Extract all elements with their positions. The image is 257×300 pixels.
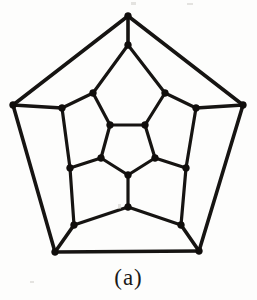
graph-edge-o1-o2 <box>128 16 243 105</box>
graph-edge-o2-m3 <box>196 105 243 108</box>
graph-vertex-outer-right <box>240 102 247 109</box>
graph-vertex-inner-right <box>152 155 159 162</box>
figure-caption: (a) <box>0 262 257 294</box>
graph-edge-m9-i3 <box>155 158 186 168</box>
graph-vertex-outer-bottom-left <box>52 249 59 256</box>
graph-edge-o2-o3 <box>199 105 243 251</box>
graph-vertex-inner-bottom <box>125 172 132 179</box>
graph-edge-m9-m3 <box>186 108 196 168</box>
graph-edge-o5-o1 <box>13 16 128 105</box>
graph-vertex-mid-left-upper <box>59 105 66 112</box>
scan-speck-top-b <box>187 3 193 5</box>
graph-vertex-outer-bottom-right <box>196 248 203 255</box>
graph-edge-m3-m2 <box>165 93 196 108</box>
graph-vertex-mid-upper-right <box>162 90 169 97</box>
graph-edge-m10-i5 <box>70 158 101 168</box>
graph-edge-o4-m6 <box>55 225 74 252</box>
graph-edge-m1-m7 <box>62 93 93 108</box>
graph-edge-m7-m10 <box>62 108 70 168</box>
graph-edge-m8-m1 <box>93 45 128 93</box>
graph-vertex-mid-right-lower <box>178 222 185 229</box>
graph-edge-o3-m4 <box>181 225 199 251</box>
graph-edge-i3-i4 <box>128 158 155 175</box>
graph-edge-o5-m7 <box>13 105 62 108</box>
graph-edge-i2-i3 <box>145 125 155 158</box>
graph-vertex-mid-right-upper <box>193 105 200 112</box>
scan-speck-top-a <box>131 2 136 5</box>
graph-vertex-mid-upper-left <box>90 90 97 97</box>
graph-vertex-outer-left <box>10 102 17 109</box>
edge-layer <box>13 16 243 252</box>
graph-edge-m6-m5 <box>74 207 128 225</box>
graph-edge-i5-i1 <box>101 125 110 158</box>
graph-edge-m2-i2 <box>145 93 165 125</box>
graph-edge-m8-m2 <box>128 45 165 93</box>
graph-edge-i4-i5 <box>101 158 128 175</box>
graph-edge-m4-m9 <box>181 168 186 225</box>
dodecahedral-graph-drawing <box>0 0 257 268</box>
graph-vertex-mid-left-lower <box>71 222 78 229</box>
graph-vertex-mid-left-mid <box>67 165 74 172</box>
graph-vertex-mid-bottom <box>125 204 132 211</box>
graph-vertex-outer-apex <box>125 13 132 20</box>
graph-vertex-mid-top <box>125 42 132 49</box>
graph-edge-m10-m6 <box>70 168 74 225</box>
graph-edge-m1-i1 <box>93 93 110 125</box>
graph-vertex-mid-right-mid <box>183 165 190 172</box>
graph-edge-o4-o5 <box>13 105 55 252</box>
figure-container: (a) <box>0 0 257 300</box>
graph-edge-o3-o4 <box>55 251 199 252</box>
graph-vertex-inner-left <box>98 155 105 162</box>
graph-vertex-inner-top-left <box>107 122 114 129</box>
graph-edge-m5-m4 <box>128 207 181 225</box>
graph-vertex-inner-top-right <box>142 122 149 129</box>
scan-speck-mid <box>118 204 121 209</box>
